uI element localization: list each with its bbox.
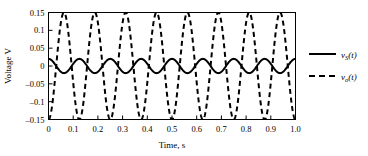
x-tick-label: 0.1 bbox=[68, 124, 79, 134]
x-tick-label: 0.6 bbox=[191, 124, 202, 134]
x-tick-label: 1.0 bbox=[290, 124, 301, 134]
x-tick-label: 0 bbox=[46, 124, 50, 134]
x-tick-label: 0.7 bbox=[216, 124, 227, 134]
y-tick-label: –0.1 bbox=[29, 97, 45, 107]
y-tick-label: 0.1 bbox=[34, 25, 45, 35]
x-tick-label: 0.2 bbox=[93, 124, 104, 134]
x-tick-label: 0.9 bbox=[265, 124, 276, 134]
legend-label-vs: vS(t) bbox=[341, 50, 357, 62]
x-tick-label: 0.8 bbox=[241, 124, 252, 134]
x-axis-title: Time, s bbox=[159, 140, 186, 150]
y-tick-label: –0.15 bbox=[24, 115, 44, 125]
x-tick-label: 0.5 bbox=[167, 124, 178, 134]
y-axis-title: Voltage V bbox=[3, 48, 13, 84]
y-tick-label: 0 bbox=[40, 61, 44, 71]
x-tick-label: 0.4 bbox=[142, 124, 153, 134]
y-tick-label: 0.15 bbox=[30, 8, 45, 18]
chart-svg: 0.150.10.050–0.05–0.1–0.15 00.10.20.30.4… bbox=[0, 0, 368, 156]
chart-background bbox=[0, 0, 368, 156]
legend-label-vo: vo(t) bbox=[341, 72, 357, 84]
y-tick-label: 0.05 bbox=[30, 43, 45, 53]
x-tick-label: 0.3 bbox=[117, 124, 128, 134]
y-tick-label: –0.05 bbox=[24, 79, 44, 89]
figure-container: 0.150.10.050–0.05–0.1–0.15 00.10.20.30.4… bbox=[0, 0, 368, 156]
